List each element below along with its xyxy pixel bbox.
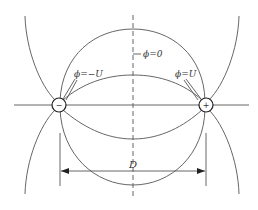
field-line-right-outer-top xyxy=(209,16,239,100)
negative-charge-sign: − xyxy=(56,101,63,110)
negative-charge: − xyxy=(52,98,66,112)
label-phi-zero: ϕ=0 xyxy=(143,49,163,59)
positive-charge: + xyxy=(199,98,213,112)
leader-phi-neg-2 xyxy=(66,80,77,100)
field-line-outer-top xyxy=(60,29,205,101)
label-distance: D xyxy=(128,159,137,170)
field-line-left-outer-top xyxy=(25,16,55,100)
positive-charge-sign: + xyxy=(203,101,210,110)
field-line-right-outer-bottom xyxy=(209,110,239,194)
dipole-field-diagram: ϕ=−U ϕ=U ϕ=0 D − + xyxy=(0,0,258,210)
leader-phi-pos-1 xyxy=(186,79,201,99)
field-line-left-outer-bottom xyxy=(25,110,55,194)
field-line-inner-bottom xyxy=(63,110,202,139)
label-phi-negative: ϕ=−U xyxy=(74,69,103,79)
leader-phi-pos-2 xyxy=(184,80,198,100)
diagram-canvas: ϕ=−U ϕ=U ϕ=0 D − + xyxy=(0,0,258,210)
label-phi-positive: ϕ=U xyxy=(175,69,197,79)
leader-phi-neg-1 xyxy=(63,79,75,99)
field-line-outer-bottom xyxy=(60,109,205,185)
